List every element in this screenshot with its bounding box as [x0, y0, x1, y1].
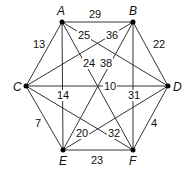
weight-b-c: 36: [106, 29, 118, 41]
node-a: [60, 20, 65, 25]
node-label-f: F: [129, 154, 137, 168]
edge-b-d: [133, 22, 168, 86]
weight-c-e: 7: [35, 117, 41, 129]
weight-e-f: 23: [91, 154, 103, 166]
weight-b-d: 22: [153, 38, 165, 50]
weight-a-c: 13: [33, 38, 45, 50]
weight-c-f: 32: [108, 127, 120, 139]
weight-c-d: 10: [104, 80, 116, 92]
weight-a-f: 24: [83, 57, 95, 69]
weight-labels: 29 13 25 14 24 36 22 38 31 10 7 32 20 4 …: [33, 8, 165, 166]
weight-a-d: 25: [78, 29, 90, 41]
edges: [26, 22, 168, 150]
node-label-c: C: [13, 80, 22, 94]
node-f: [131, 148, 136, 153]
weight-b-f: 31: [128, 89, 140, 101]
weight-d-e: 20: [76, 127, 88, 139]
weight-a-b: 29: [89, 8, 101, 20]
weighted-graph: 29 13 25 14 24 36 22 38 31 10 7 32 20 4 …: [0, 0, 186, 173]
weight-d-f: 4: [151, 117, 157, 129]
node-b: [131, 20, 136, 25]
node-e: [61, 148, 66, 153]
node-d: [166, 84, 171, 89]
weight-a-e: 14: [57, 89, 69, 101]
node-label-e: E: [59, 154, 68, 168]
node-c: [24, 84, 29, 89]
node-label-b: B: [129, 4, 137, 18]
node-label-a: A: [56, 4, 65, 18]
node-label-d: D: [173, 80, 182, 94]
edge-a-c: [26, 22, 62, 86]
weight-label-backgrounds: [56, 9, 141, 139]
weight-b-e: 38: [100, 57, 112, 69]
